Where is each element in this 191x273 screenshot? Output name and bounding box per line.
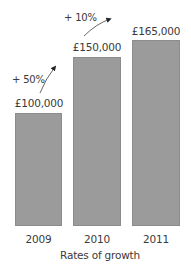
x-axis-title: Rates of growth	[45, 249, 155, 261]
growth-label-2010-2011: + 10%	[64, 12, 97, 23]
value-label-2011: £165,000	[127, 25, 185, 37]
bar-2011	[132, 40, 180, 226]
category-label-2010: 2010	[73, 233, 121, 245]
category-label-2009: 2009	[15, 233, 62, 245]
bar-2009	[15, 113, 62, 226]
value-label-2009: £100,000	[10, 97, 68, 109]
category-label-2011: 2011	[132, 233, 180, 245]
value-label-2010: £150,000	[68, 41, 126, 53]
bar-2010	[73, 57, 121, 226]
growth-label-2009-2010: + 50%	[12, 74, 45, 85]
bar-chart: £100,000 £150,000 £165,000 + 50% + 10% 2…	[0, 0, 191, 273]
